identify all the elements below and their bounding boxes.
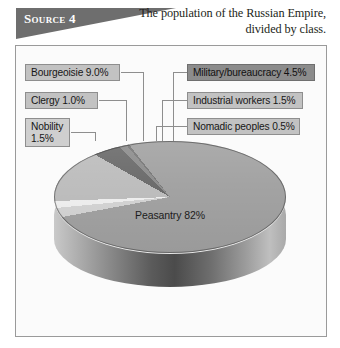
callout-military-bureaucracy: Military/bureaucracy 4.5% xyxy=(187,64,315,81)
pie-slice-label-peasantry: Peasantry 82% xyxy=(54,209,286,221)
figure-header: Source 4 The population of the Russian E… xyxy=(0,0,340,46)
callout-nobility: Nobility 1.5% xyxy=(25,118,70,147)
callout-clergy: Clergy 1.0% xyxy=(25,92,98,109)
figure-title: The population of the Russian Empire, di… xyxy=(120,6,326,37)
pie-top-face xyxy=(54,141,286,253)
source-number-label: Source 4 xyxy=(24,11,76,27)
callout-bourgeoisie: Bourgeoisie 9.0% xyxy=(25,64,120,81)
pie-chart: Peasantry 82% xyxy=(54,141,286,316)
pie-slice-nomadic xyxy=(54,141,286,253)
callout-industrial-workers: Industrial workers 1.5% xyxy=(187,92,303,109)
callout-nomadic-peoples: Nomadic peoples 0.5% xyxy=(187,118,300,135)
source-figure-page: Source 4 The population of the Russian E… xyxy=(0,0,340,348)
chart-frame: Peasantry 82% Bourgeoisie 9.0% Clergy 1.… xyxy=(15,45,327,337)
